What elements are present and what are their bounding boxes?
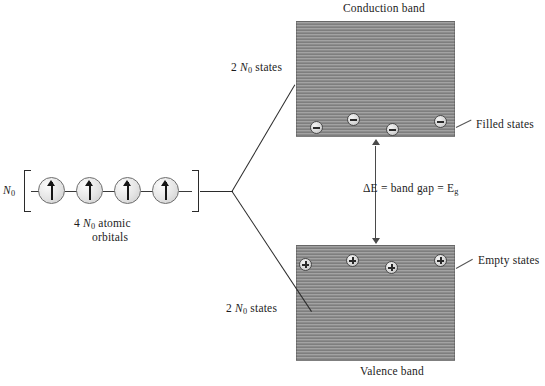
lower-states-var: N [235, 302, 243, 314]
band-gap-text: ΔE = band gap = E [363, 182, 454, 194]
valence-band-block [296, 245, 455, 361]
atomic-orbital [152, 177, 179, 204]
hole-carrier [299, 258, 312, 271]
filled-states-label: Filled states [476, 119, 534, 131]
atomic-orbital [38, 177, 65, 204]
left-bracket [24, 170, 31, 212]
upper-states-sub: 0 [248, 66, 252, 75]
electron-carrier [386, 123, 399, 136]
atomic-orbital [114, 177, 141, 204]
atoms-bracket-var: N [3, 184, 11, 196]
electron-carrier [347, 113, 360, 126]
band-gap-sub: g [454, 187, 458, 196]
orbital-count-label: 4 N0 atomic [74, 218, 131, 230]
atoms-bracket-sub: 0 [11, 189, 15, 198]
orbital-count-var: N [83, 217, 91, 229]
empty-states-label: Empty states [478, 255, 540, 267]
atomic-orbital [76, 177, 103, 204]
band-gap-arrow-head-up [372, 139, 380, 145]
upper-states-var: N [240, 61, 248, 73]
atoms-bracket-label: N0 [3, 185, 15, 197]
orbital-count-sub: 0 [91, 222, 95, 231]
upper-states-tail: states [252, 61, 282, 73]
lower-states-tail: states [247, 302, 277, 314]
hole-carrier [434, 254, 447, 267]
conduction-band-block [296, 21, 455, 137]
band-gap-label: ΔE = band gap = Eg [363, 183, 459, 195]
hole-carrier [346, 254, 359, 267]
lower-states-label: 2 N0 states [226, 303, 277, 315]
band-gap-arrow-head-down [372, 238, 380, 244]
conduction-band-title: Conduction band [343, 3, 425, 15]
orbital-link [179, 191, 192, 192]
right-bracket [192, 170, 199, 212]
filled-states-leader-line [456, 120, 472, 128]
fork-stem-line [200, 191, 233, 192]
band-diagram-figure: Conduction band Filled states 2 N0 state… [0, 0, 545, 386]
hole-carrier [385, 261, 398, 274]
lower-states-sub: 0 [243, 307, 247, 316]
upper-states-count: 2 [231, 61, 240, 73]
orbital-count-label-line2: orbitals [92, 232, 128, 244]
orbital-count-tail: atomic [95, 217, 131, 229]
upper-states-label: 2 N0 states [231, 62, 282, 74]
valence-band-title: Valence band [360, 366, 424, 378]
electron-carrier [310, 121, 323, 134]
orbital-count-num: 4 [74, 217, 83, 229]
empty-states-leader-line [456, 259, 473, 269]
lower-states-count: 2 [226, 302, 235, 314]
fork-upper-line [231, 84, 295, 191]
electron-carrier [434, 115, 447, 128]
